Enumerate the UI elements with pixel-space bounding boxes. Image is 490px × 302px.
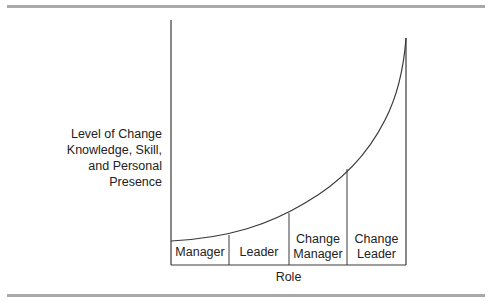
cell-change-manager: Change Manager xyxy=(289,232,347,262)
cell-label-line: Change xyxy=(347,232,406,247)
cell-change-leader: Change Leader xyxy=(347,232,406,262)
cell-label-line: Manager xyxy=(171,245,229,260)
bottom-rule xyxy=(7,294,485,297)
growth-curve xyxy=(171,38,406,241)
cell-label-line: Change xyxy=(289,232,347,247)
x-axis-label: Role xyxy=(171,270,406,284)
cell-label-line: Manager xyxy=(289,247,347,262)
y-label-line: Level of Change xyxy=(20,126,162,142)
cell-manager: Manager xyxy=(171,245,229,260)
y-label-line: Presence xyxy=(20,174,162,190)
cell-label-line: Leader xyxy=(229,245,289,260)
y-label-line: and Personal xyxy=(20,158,162,174)
cell-leader: Leader xyxy=(229,245,289,260)
cell-label-line: Leader xyxy=(347,247,406,262)
y-label-line: Knowledge, Skill, xyxy=(20,142,162,158)
y-axis-label: Level of Change Knowledge, Skill, and Pe… xyxy=(20,126,162,190)
